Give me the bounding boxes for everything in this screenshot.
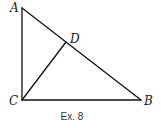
- vertex-label-d: D: [69, 32, 80, 46]
- figure-caption: Ex. 8: [61, 111, 84, 122]
- vertex-label-c: C: [9, 94, 18, 108]
- segment-cd: [22, 42, 66, 100]
- vertex-label-b: B: [143, 94, 153, 108]
- vertex-label-a: A: [9, 1, 19, 15]
- segment-ab: [22, 8, 141, 100]
- triangle-diagram: A D C B Ex. 8: [0, 0, 161, 128]
